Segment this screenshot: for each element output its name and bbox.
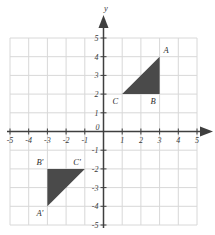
x-tick-label: -2 bbox=[63, 136, 70, 145]
x-tick-label: 3 bbox=[157, 136, 162, 145]
vertex-label-b-prime: B' bbox=[36, 157, 43, 167]
x-tick-label: -5 bbox=[7, 136, 14, 145]
y-tick-label: -3 bbox=[92, 184, 99, 193]
coordinate-plane-svg: -5-4-3-2-11234554321-1-2-3-4-50 y ABCA'B… bbox=[0, 0, 215, 235]
y-tick-label: -1 bbox=[92, 146, 99, 155]
x-tick-label: 2 bbox=[139, 136, 143, 145]
x-tick-label: -1 bbox=[81, 136, 88, 145]
y-tick-label: 5 bbox=[95, 34, 99, 43]
y-axis-label: y bbox=[103, 3, 108, 13]
y-tick-label: -4 bbox=[92, 202, 99, 211]
x-tick-label: 1 bbox=[120, 136, 124, 145]
y-tick-label: 4 bbox=[95, 53, 99, 62]
y-tick-label: 2 bbox=[95, 90, 99, 99]
vertex-label-a: A bbox=[163, 45, 170, 55]
vertex-label-a-prime: A' bbox=[35, 208, 43, 218]
vertex-label-c-prime: C' bbox=[73, 157, 81, 167]
y-tick-label: 1 bbox=[95, 109, 99, 118]
vertex-label-b: B bbox=[150, 96, 155, 106]
x-tick-label: -4 bbox=[25, 136, 32, 145]
coordinate-plane-figure: -5-4-3-2-11234554321-1-2-3-4-50 y ABCA'B… bbox=[0, 0, 215, 235]
x-tick-label: 5 bbox=[195, 136, 199, 145]
vertex-label-c: C bbox=[113, 96, 119, 106]
origin-label: 0 bbox=[96, 123, 100, 132]
figure-background bbox=[0, 0, 215, 235]
x-tick-label: 4 bbox=[176, 136, 180, 145]
y-tick-label: -5 bbox=[92, 221, 99, 230]
y-tick-label: 3 bbox=[94, 71, 99, 80]
x-tick-label: -3 bbox=[44, 136, 51, 145]
y-tick-label: -2 bbox=[92, 165, 99, 174]
